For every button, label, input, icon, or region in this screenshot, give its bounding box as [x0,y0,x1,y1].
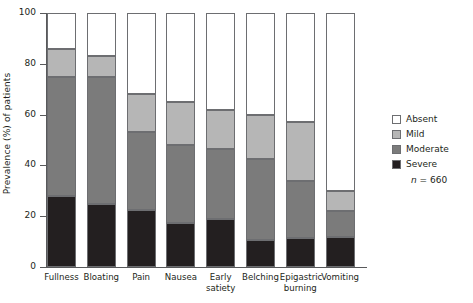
bar-bloating[interactable] [87,13,116,267]
bar-segment-severe[interactable] [47,196,76,267]
bar-segment-severe[interactable] [326,237,355,267]
bar-segment-absent[interactable] [206,13,235,110]
legend-item-severe[interactable]: Severe [392,157,473,171]
y-axis-tick [40,13,46,14]
bar-segment-severe[interactable] [166,223,195,267]
legend-swatch-moderate [392,145,401,154]
legend-swatch-absent [392,115,401,124]
bar-segment-severe[interactable] [206,219,235,267]
bar-segment-mild[interactable] [326,191,355,211]
y-axis-tick [40,267,46,268]
bar-segment-severe[interactable] [127,210,156,267]
bar-segment-moderate[interactable] [87,77,116,204]
bar-segment-moderate[interactable] [166,145,195,222]
legend: AbsentMildModerateSevere n = 660 [392,112,473,185]
y-axis-tick-label: 80 [0,58,36,68]
legend-item-mild[interactable]: Mild [392,127,473,141]
legend-item-moderate[interactable]: Moderate [392,142,473,156]
y-axis-tick-label: 0 [0,261,36,271]
bar-segment-severe[interactable] [246,240,275,267]
legend-swatch-severe [392,160,401,169]
x-axis-label-early-satiety: Early satiety [200,272,241,294]
bar-segment-severe[interactable] [286,238,315,267]
bar-fullness[interactable] [47,13,76,267]
bar-early-satiety[interactable] [206,13,235,267]
legend-swatch-mild [392,130,401,139]
bar-segment-absent[interactable] [166,13,195,102]
legend-label-absent: Absent [406,114,437,124]
bar-segment-absent[interactable] [246,13,275,115]
y-axis-title: Prevalence (%) of patients [0,0,14,267]
bar-pain[interactable] [127,13,156,267]
y-axis-tick [40,115,46,116]
bar-segment-absent[interactable] [47,13,76,49]
y-axis-tick [40,216,46,217]
y-axis-tick [40,64,46,65]
x-axis-line [40,267,367,268]
legend-label-moderate: Moderate [406,144,449,154]
sample-size-annotation: n = 660 [411,175,473,185]
bar-segment-absent[interactable] [326,13,355,191]
legend-label-severe: Severe [406,159,437,169]
legend-label-mild: Mild [406,129,424,139]
bar-nausea[interactable] [166,13,195,267]
stacked-bar-chart: Prevalence (%) of patients 020406080100 … [0,0,473,303]
x-axis-label-belching: Belching [240,272,281,283]
bar-vomiting[interactable] [326,13,355,267]
x-axis-label-fullness: Fullness [41,272,82,283]
bar-segment-moderate[interactable] [246,159,275,240]
bar-segment-mild[interactable] [286,122,315,180]
bar-segment-absent[interactable] [87,13,116,56]
bar-segment-moderate[interactable] [206,149,235,219]
bar-segment-moderate[interactable] [127,132,156,209]
bar-epigastric-burning[interactable] [286,13,315,267]
legend-item-absent[interactable]: Absent [392,112,473,126]
bar-segment-severe[interactable] [87,204,116,268]
x-axis-label-pain: Pain [121,272,162,283]
y-axis-tick-label: 40 [0,159,36,169]
legend-items: AbsentMildModerateSevere [392,112,473,171]
x-axis-label-vomiting: Vomiting [320,272,361,283]
y-axis-tick-label: 60 [0,109,36,119]
x-axis-label-epigastric-burning: Epigastric burning [280,272,321,294]
bar-segment-mild[interactable] [127,94,156,132]
bar-segment-moderate[interactable] [286,181,315,238]
bar-segment-mild[interactable] [246,115,275,159]
sample-size-symbol: n [411,175,417,185]
sample-size-value: = 660 [420,175,448,185]
bar-segment-mild[interactable] [166,102,195,145]
bar-segment-absent[interactable] [286,13,315,122]
plot-area [47,13,365,267]
bar-segment-moderate[interactable] [326,211,355,236]
y-axis-tick-label: 100 [0,7,36,17]
bar-segment-moderate[interactable] [47,77,76,196]
x-axis-label-bloating: Bloating [81,272,122,283]
bar-belching[interactable] [246,13,275,267]
y-axis-tick [40,165,46,166]
bar-segment-absent[interactable] [127,13,156,94]
y-axis-tick-label: 20 [0,210,36,220]
bar-segment-mild[interactable] [87,56,116,76]
bar-segment-mild[interactable] [206,110,235,149]
bar-segment-mild[interactable] [47,49,76,77]
x-axis-label-nausea: Nausea [160,272,201,283]
